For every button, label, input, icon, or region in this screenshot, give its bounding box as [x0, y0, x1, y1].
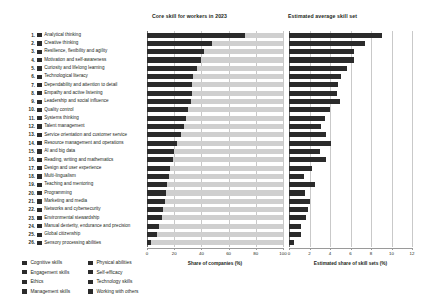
bar-row: [147, 122, 283, 130]
skill-rank-number: 24.: [26, 224, 35, 229]
bar: [147, 57, 201, 62]
bar: [289, 99, 340, 104]
legend-item-label: Management skills: [30, 289, 70, 294]
bar-row: [147, 48, 283, 56]
bar: [289, 57, 354, 62]
bar-row: [289, 131, 412, 139]
skill-label-text: Resource management and operations: [44, 141, 123, 146]
bar: [289, 174, 304, 179]
skill-rank-number: 18.: [26, 174, 35, 179]
category-color-swatch-icon: [37, 66, 42, 70]
skill-label-row: 15.AI and big data: [26, 147, 144, 155]
category-color-swatch-icon: [37, 50, 42, 54]
bar-row: [289, 172, 412, 180]
bar: [289, 224, 301, 229]
skill-rank-number: 8.: [26, 91, 35, 96]
skill-label-row: 11.Systems thinking: [26, 114, 144, 122]
skill-label-row: 1.Analytical thinking: [26, 31, 144, 39]
bar: [147, 166, 170, 171]
bar: [147, 207, 163, 212]
bar-row: [147, 31, 283, 39]
skill-label-row: 26.Sensory processing abilities: [26, 239, 144, 247]
skill-rank-number: 3.: [26, 49, 35, 54]
skill-label-row: 3.Resilience, flexibility and agility: [26, 48, 144, 56]
legend-column-2: Physical abilitiesSelf-efficacyTechnolog…: [88, 258, 138, 296]
bar: [289, 82, 338, 87]
skill-label-text: Resilience, flexibility and agility: [44, 49, 107, 54]
legend-item-label: Physical abilities: [96, 260, 131, 265]
skill-rank-number: 13.: [26, 132, 35, 137]
legend-color-swatch-icon: [22, 280, 27, 284]
skill-label-text: Networks and cybersecurity: [44, 207, 100, 212]
bar-row: [147, 89, 283, 97]
category-color-swatch-icon: [37, 166, 42, 170]
legend-item[interactable]: Self-efficacy: [88, 268, 138, 278]
right-tick-mark: [330, 248, 331, 250]
legend-item[interactable]: Cognitive skills: [22, 258, 70, 268]
bar-row: [147, 131, 283, 139]
bar-background-track: [147, 190, 283, 195]
legend-color-swatch-icon: [88, 289, 93, 293]
left-tick-mark: [147, 248, 148, 250]
bar: [289, 232, 301, 237]
bar: [147, 199, 165, 204]
left-tick-label: 60: [226, 251, 231, 256]
bar: [289, 33, 382, 38]
legend-color-swatch-icon: [22, 289, 27, 293]
legend-item[interactable]: Working with others: [88, 287, 138, 297]
bar-row: [289, 31, 412, 39]
category-color-swatch-icon: [37, 108, 42, 112]
legend-item-label: Engagement skills: [30, 270, 69, 275]
bar-row: [289, 139, 412, 147]
bar-row: [289, 197, 412, 205]
right-tick-label: 6: [349, 251, 351, 256]
bar-row: [147, 73, 283, 81]
bar: [289, 182, 315, 187]
bar: [147, 74, 193, 79]
bar-row: [147, 164, 283, 172]
skill-rank-number: 19.: [26, 182, 35, 187]
legend-item[interactable]: Physical abilities: [88, 258, 138, 268]
left-panel-title: Core skill for workers in 2023: [152, 13, 227, 19]
bar-row: [289, 64, 412, 72]
skill-rank-number: 10.: [26, 107, 35, 112]
right-tick-label: 4: [329, 251, 331, 256]
left-tick-label: 20: [172, 251, 177, 256]
legend-item-label: Technology skills: [96, 279, 132, 284]
bar: [147, 215, 162, 220]
category-color-swatch-icon: [37, 100, 42, 104]
skill-label-text: Empathy and active listening: [44, 91, 102, 96]
legend-item[interactable]: Management skills: [22, 287, 70, 297]
bar-row: [147, 172, 283, 180]
left-chart-panel: [147, 31, 283, 247]
legend-item[interactable]: Technology skills: [88, 277, 138, 287]
bar-background-track: [147, 199, 283, 204]
legend-item[interactable]: Engagement skills: [22, 268, 70, 278]
right-bar-series: [289, 31, 412, 247]
right-tick-mark: [412, 248, 413, 250]
skill-rank-number: 7.: [26, 83, 35, 88]
right-tick-label: 12: [410, 251, 415, 256]
bar: [147, 190, 166, 195]
category-color-swatch-icon: [37, 174, 42, 178]
skill-label-text: Dependability and attention to detail: [44, 83, 117, 88]
left-tick-label: 80: [253, 251, 258, 256]
skill-label-column: 1.Analytical thinking2.Creative thinking…: [26, 31, 144, 247]
legend-item[interactable]: Ethics: [22, 277, 70, 287]
bar: [289, 215, 306, 220]
right-chart-panel: [289, 31, 412, 247]
bar-row: [289, 181, 412, 189]
skill-rank-number: 17.: [26, 166, 35, 171]
skill-rank-number: 2.: [26, 41, 35, 46]
bar: [289, 91, 337, 96]
bar: [289, 149, 320, 154]
bar: [147, 149, 174, 154]
bar: [147, 49, 204, 54]
category-color-swatch-icon: [37, 191, 42, 195]
bar: [147, 82, 192, 87]
left-tick-mark: [229, 248, 230, 250]
category-color-swatch-icon: [37, 116, 42, 120]
skill-label-text: Creative thinking: [44, 41, 78, 46]
right-tick-label: 10: [389, 251, 394, 256]
bar-row: [147, 81, 283, 89]
